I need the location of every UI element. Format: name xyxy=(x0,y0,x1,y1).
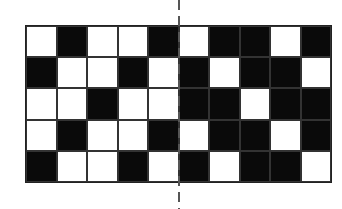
grid-cell-r4-c6 xyxy=(179,120,210,151)
dashed-symmetry-axis xyxy=(178,0,180,209)
grid-cell-r3-c4 xyxy=(118,88,149,119)
grid-cell-r3-c7 xyxy=(209,88,240,119)
grid-cell-r2-c5 xyxy=(148,57,179,88)
grid-cell-r2-c7 xyxy=(209,57,240,88)
grid-cell-r3-c10 xyxy=(301,88,332,119)
grid-cell-r2-c2 xyxy=(57,57,88,88)
grid-cell-r1-c9 xyxy=(270,26,301,57)
grid-cell-r2-c4 xyxy=(118,57,149,88)
grid-cell-r5-c3 xyxy=(87,151,118,182)
grid-cell-r1-c6 xyxy=(179,26,210,57)
grid-cell-r5-c1 xyxy=(26,151,57,182)
grid-cell-r4-c8 xyxy=(240,120,271,151)
grid-cell-r2-c10 xyxy=(301,57,332,88)
grid-cell-r1-c7 xyxy=(209,26,240,57)
grid-cell-r5-c10 xyxy=(301,151,332,182)
grid-cell-r1-c2 xyxy=(57,26,88,57)
grid-cell-r3-c9 xyxy=(270,88,301,119)
grid-cell-r4-c7 xyxy=(209,120,240,151)
grid-cell-r3-c5 xyxy=(148,88,179,119)
grid-cell-r4-c2 xyxy=(57,120,88,151)
grid-cell-r5-c2 xyxy=(57,151,88,182)
grid-cell-r5-c6 xyxy=(179,151,210,182)
grid-cell-r5-c5 xyxy=(148,151,179,182)
grid-cell-r1-c4 xyxy=(118,26,149,57)
grid-cell-r5-c8 xyxy=(240,151,271,182)
grid-cell-r4-c9 xyxy=(270,120,301,151)
grid-cell-r3-c6 xyxy=(179,88,210,119)
grid-cell-r2-c3 xyxy=(87,57,118,88)
grid-cell-r3-c8 xyxy=(240,88,271,119)
grid-cell-r1-c5 xyxy=(148,26,179,57)
grid-cell-r1-c10 xyxy=(301,26,332,57)
grid-cell-r1-c1 xyxy=(26,26,57,57)
grid-cell-r4-c1 xyxy=(26,120,57,151)
grid-cell-r1-c3 xyxy=(87,26,118,57)
grid-cell-r3-c3 xyxy=(87,88,118,119)
grid-cell-r4-c5 xyxy=(148,120,179,151)
grid-cell-r2-c8 xyxy=(240,57,271,88)
grid-cell-r5-c4 xyxy=(118,151,149,182)
grid-cell-r4-c4 xyxy=(118,120,149,151)
grid-cell-r3-c2 xyxy=(57,88,88,119)
grid-cell-r3-c1 xyxy=(26,88,57,119)
grid-cell-r4-c3 xyxy=(87,120,118,151)
grid-cell-r2-c6 xyxy=(179,57,210,88)
grid-cell-r2-c1 xyxy=(26,57,57,88)
grid-cell-r5-c9 xyxy=(270,151,301,182)
grid-cell-r4-c10 xyxy=(301,120,332,151)
grid-cell-r2-c9 xyxy=(270,57,301,88)
grid-cell-r1-c8 xyxy=(240,26,271,57)
grid-cell-r5-c7 xyxy=(209,151,240,182)
